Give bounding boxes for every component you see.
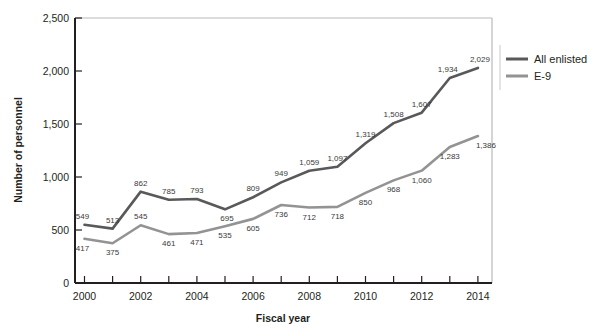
data-label: 545	[134, 212, 148, 221]
data-label: 1,386	[476, 141, 497, 150]
data-label: 1,607	[412, 100, 433, 109]
plot-frame	[75, 18, 492, 283]
data-label: 736	[275, 210, 289, 219]
data-label: 1,097	[327, 154, 348, 163]
data-labels-e9: 4173755454614715356057367127188509681,06…	[76, 141, 497, 257]
data-label: 1,059	[299, 158, 320, 167]
data-label: 605	[246, 224, 260, 233]
data-label: 718	[331, 212, 345, 221]
data-label: 417	[76, 244, 90, 253]
data-label: 862	[134, 179, 148, 188]
y-axis-title: Number of personnel	[12, 97, 24, 203]
x-tick-label-2014: 2014	[466, 290, 490, 302]
x-tick-label-2000: 2000	[73, 290, 97, 302]
data-label: 2,029	[470, 55, 491, 64]
y-tick-label-1000: 1,000	[43, 171, 69, 183]
data-labels-all-enlisted: 5495138627857936958099491,0591,0971,3191…	[76, 55, 491, 225]
x-tick-label-2006: 2006	[241, 290, 265, 302]
y-tick-label-0: 0	[63, 277, 69, 289]
y-tick-label-2000: 2,000	[43, 65, 69, 77]
data-label: 375	[106, 248, 120, 257]
data-label: 850	[359, 198, 373, 207]
data-label: 785	[162, 187, 176, 196]
legend-label-all-enlisted: All enlisted	[534, 53, 587, 65]
y-tick-label-2500: 2,500	[43, 12, 69, 24]
y-tick-label-500: 500	[51, 224, 69, 236]
data-label: 1,319	[355, 130, 376, 139]
data-label: 968	[387, 185, 401, 194]
data-label: 1,283	[440, 152, 461, 161]
data-label: 1,508	[384, 110, 405, 119]
data-label: 535	[218, 231, 232, 240]
chart-container: 0 500 1,000 1,500 2,000 2,500 2000 2	[0, 0, 595, 336]
x-axis-ticks: 2000 2002 2004 2006 2008 2010 2012 2014	[73, 276, 490, 302]
data-label: 712	[303, 213, 317, 222]
data-label: 461	[162, 239, 176, 248]
x-tick-label-2012: 2012	[410, 290, 434, 302]
axes	[75, 18, 492, 283]
x-tick-label-2004: 2004	[185, 290, 209, 302]
x-tick-label-2010: 2010	[354, 290, 378, 302]
data-label: 513	[106, 216, 120, 225]
data-label: 549	[76, 212, 90, 221]
series-line-e9	[85, 136, 478, 243]
data-label: 793	[190, 186, 204, 195]
data-label: 949	[275, 169, 289, 178]
data-label: 471	[190, 238, 204, 247]
x-axis-title: Fiscal year	[256, 312, 310, 324]
x-tick-label-2002: 2002	[129, 290, 153, 302]
data-label: 809	[246, 184, 260, 193]
data-label: 1,060	[412, 176, 433, 185]
data-label: 1,934	[438, 65, 459, 74]
line-chart: 0 500 1,000 1,500 2,000 2,500 2000 2	[0, 0, 595, 336]
data-label: 695	[220, 214, 234, 223]
x-tick-label-2008: 2008	[298, 290, 322, 302]
legend-label-e9: E-9	[534, 70, 551, 82]
y-tick-label-1500: 1,500	[43, 118, 69, 130]
legend: All enlisted E-9	[500, 45, 587, 90]
